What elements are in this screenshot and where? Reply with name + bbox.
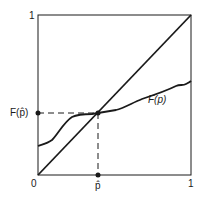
function-curve-label: F(p) — [148, 94, 166, 105]
x-marker-label: p̂ — [95, 180, 101, 191]
y-axis-marker — [36, 111, 41, 116]
x-max-label: 1 — [188, 178, 194, 189]
y-max-label: 1 — [29, 10, 35, 21]
origin-label: 0 — [31, 178, 37, 189]
y-marker-label: F(p̂) — [10, 107, 28, 118]
x-axis-marker — [96, 173, 101, 178]
diagonal-line — [38, 15, 191, 175]
fixed-point-marker — [96, 111, 101, 116]
fixed-point-diagram: 1 0 1 p̂ F(p̂) F(p) — [0, 0, 202, 199]
